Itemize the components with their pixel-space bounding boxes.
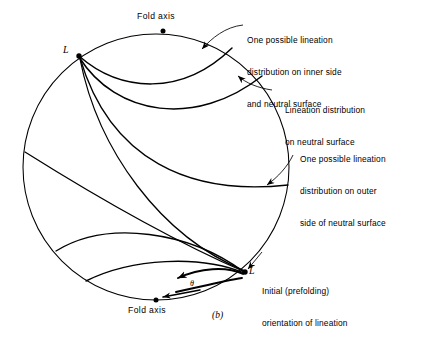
- lineation-node-upper-left: [76, 53, 81, 58]
- annotation-initial-orientation: Initial (prefolding) orientation of line…: [262, 265, 348, 338]
- figure-root: Fold axis Fold axis L L θ One possible l…: [0, 0, 423, 338]
- annotation-initial-orientation-line2: orientation of lineation: [262, 318, 348, 329]
- lineation-label-upper-left: L: [63, 44, 69, 55]
- annotation-inner-side-line1: One possible lineation: [247, 35, 342, 46]
- fold-axis-dot-top: [161, 29, 166, 34]
- fold-axis-label-bottom: Fold axis: [128, 305, 166, 315]
- lineation-node-lower-right: [242, 269, 247, 274]
- annotation-outer-side-line2: distribution on outer: [300, 186, 386, 197]
- fold-axis-label-top: Fold axis: [137, 11, 175, 21]
- annotation-initial-orientation-line1: Initial (prefolding): [262, 286, 348, 297]
- annotation-outer-side: One possible lineation distribution on o…: [300, 133, 386, 250]
- lineation-label-lower-right: L: [249, 265, 255, 276]
- fold-axis-dot-bottom: [154, 298, 159, 303]
- theta-angle-label: θ: [190, 279, 194, 288]
- annotation-inner-side-line2: distribution on inner side: [247, 67, 342, 78]
- annotation-outer-side-line1: One possible lineation: [300, 154, 386, 165]
- figure-caption: (b): [212, 310, 223, 320]
- annotation-neutral-surface-line1: Lineation distribution: [285, 105, 365, 116]
- annotation-outer-side-line3: side of neutral surface: [300, 218, 386, 229]
